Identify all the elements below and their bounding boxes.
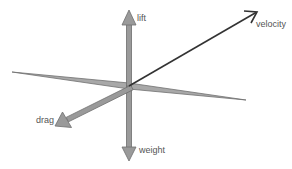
velocity-arrow <box>129 11 257 86</box>
weight-label: weight <box>139 146 165 155</box>
weight-arrow <box>122 86 136 161</box>
velocity-label: velocity <box>256 20 286 29</box>
lift-label: lift <box>137 14 146 23</box>
force-diagram: lift velocity drag weight <box>0 0 292 169</box>
force-diagram-svg <box>0 0 292 169</box>
lift-arrow <box>122 10 136 86</box>
drag-arrow <box>55 85 133 127</box>
drag-label: drag <box>36 116 54 125</box>
